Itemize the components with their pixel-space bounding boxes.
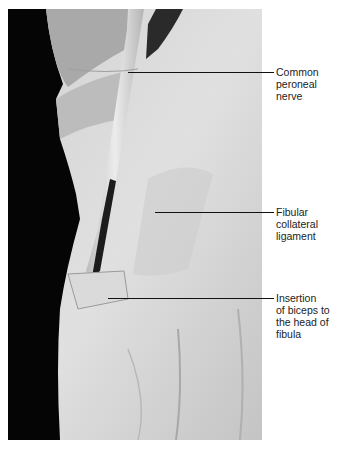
- leader-line-biceps-insertion: [108, 298, 262, 299]
- leader-tick-1: [262, 72, 274, 73]
- leader-tick-2: [262, 212, 274, 213]
- leader-line-fibular-collateral-ligament: [155, 212, 262, 213]
- label-common-peroneal-nerve: Common peroneal nerve: [276, 66, 319, 102]
- leader-tick-3: [262, 298, 274, 299]
- dissection-photo: [8, 9, 262, 440]
- dissection-illustration: [8, 9, 262, 440]
- leader-line-common-peroneal-nerve: [128, 72, 262, 73]
- label-biceps-insertion: Insertion of biceps to the head of fibul…: [276, 292, 330, 340]
- label-fibular-collateral-ligament: Fibular collateral ligament: [276, 206, 318, 242]
